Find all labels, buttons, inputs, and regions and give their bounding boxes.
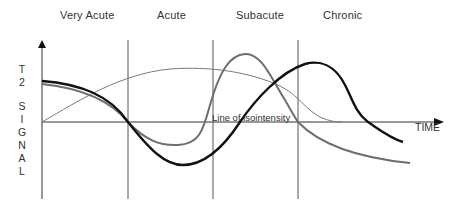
signal-diagram (0, 0, 460, 215)
y-axis-arrow-icon (38, 40, 46, 48)
x-axis-label: TIME (415, 121, 440, 133)
isointensity-label: Line of isointensity (212, 112, 290, 123)
curve-thin (42, 68, 342, 122)
